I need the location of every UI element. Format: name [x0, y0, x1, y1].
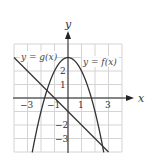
- y-axis-arrow-icon: [65, 31, 71, 39]
- g-function-label: y = g(x): [20, 52, 58, 62]
- y-tick-neg3: −3: [55, 134, 69, 144]
- y-tick-2: 2: [60, 66, 66, 76]
- y-axis-label: y: [64, 18, 72, 31]
- x-axis-label: x: [138, 92, 145, 105]
- x-tick-neg1: −1: [47, 100, 60, 110]
- x-tick-3: 3: [105, 100, 111, 110]
- y-tick-neg2: −2: [55, 120, 68, 130]
- x-tick-1: 1: [78, 100, 84, 110]
- y-tick-1: 1: [60, 80, 66, 90]
- axes: [13, 31, 134, 153]
- function-graph: x y −3 −1 1 3 2 1 −2 −3 y = g(x) y = f(x…: [0, 0, 153, 168]
- f-function-label: y = f(x): [82, 57, 117, 67]
- x-axis-arrow-icon: [126, 95, 134, 101]
- x-tick-neg3: −3: [20, 100, 34, 110]
